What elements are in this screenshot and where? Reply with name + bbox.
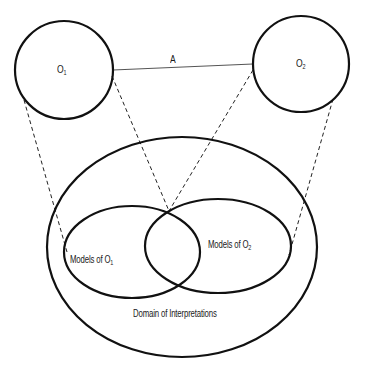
- models-o1-ellipse: [64, 206, 200, 298]
- domain-label: Domain of Interpretations: [133, 308, 217, 319]
- relation-label-a: A: [170, 53, 176, 65]
- ontology-label-o2: O2: [296, 57, 305, 70]
- relation-label-a-text: A: [170, 53, 176, 65]
- ontology-models-diagram: [0, 0, 366, 377]
- domain-ellipse: [47, 137, 317, 357]
- domain-label-text: Domain of Interpretations: [133, 308, 217, 319]
- models-label-o1: Models of O1: [70, 254, 113, 266]
- ontology-label-o1-sub: 1: [64, 69, 67, 76]
- models-label-o1-text: Models of O: [70, 254, 110, 265]
- models-label-o1-sub: 1: [110, 259, 113, 266]
- mapping-line-o1-left: [24, 100, 67, 252]
- models-label-o2-sub: 2: [248, 244, 251, 251]
- mapping-line-o2-right: [289, 99, 333, 255]
- mapping-line-o1-right: [112, 76, 169, 211]
- ontology-label-o2-sub: 2: [303, 63, 306, 70]
- models-label-o2: Models of O2: [208, 239, 251, 251]
- relation-line-a: [113, 64, 253, 70]
- ontology-label-o1: O1: [57, 63, 66, 76]
- models-label-o2-text: Models of O: [208, 239, 248, 250]
